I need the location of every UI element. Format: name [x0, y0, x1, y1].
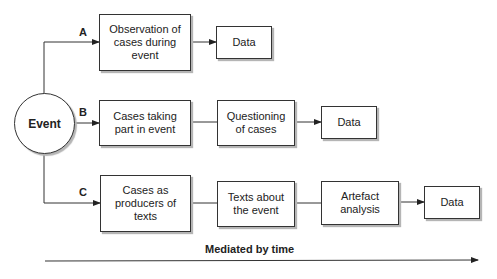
- node-questioning-of-cases: Questioning of cases: [217, 100, 295, 146]
- node-texts-about-event: Texts about the event: [217, 181, 295, 227]
- node-data-c: Data: [424, 186, 480, 219]
- node-cases-taking-part: Cases taking part in event: [99, 100, 191, 146]
- node-cases-as-producers: Cases as producers of texts: [100, 175, 191, 232]
- branch-label-b: B: [79, 106, 87, 118]
- branch-label-c: C: [79, 186, 87, 198]
- time-axis-label: Mediated by time: [205, 243, 294, 255]
- node-data-a: Data: [216, 26, 272, 59]
- node-observation-of-cases: Observation of cases during event: [99, 14, 191, 71]
- node-artefact-analysis: Artefact analysis: [321, 181, 399, 225]
- branch-label-a: A: [79, 26, 87, 38]
- node-data-b: Data: [321, 106, 377, 139]
- event-node: Event: [14, 93, 75, 154]
- event-node-label: Event: [28, 117, 61, 131]
